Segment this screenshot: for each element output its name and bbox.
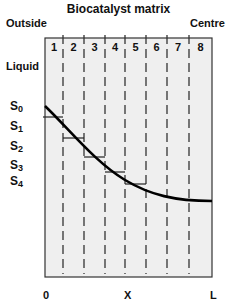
segment-label: 1 [45,41,63,53]
segment-label: 3 [84,41,105,53]
matrix-box [45,38,212,277]
segment-labels: 1 2 3 4 5 6 7 8 [45,41,212,53]
segment-label: 8 [189,41,212,53]
s4-label: S4 [10,174,23,189]
s3-label: S3 [10,158,23,173]
x-axis-start: 0 [43,289,49,301]
segment-label: 2 [63,41,84,53]
segment-label: 6 [146,41,167,53]
s2-label: S2 [10,139,23,154]
x-axis-middle: X [124,289,131,301]
x-axis-end: L [210,289,217,301]
s0-label: S0 [10,99,23,114]
segment-label: 5 [125,41,146,53]
s1-label: S1 [10,119,23,134]
segment-label: 7 [167,41,189,53]
segment-label: 4 [105,41,125,53]
